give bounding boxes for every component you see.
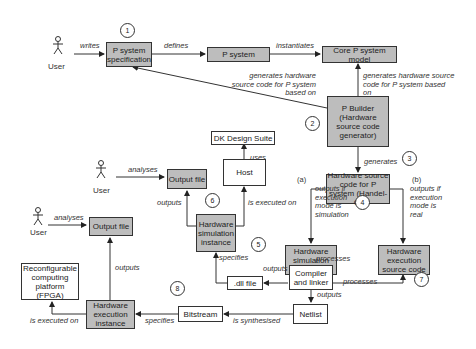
user-label-2: User xyxy=(93,187,110,196)
hardware-execution-instance-box: Hardware execution instance xyxy=(86,300,135,329)
core-p-system-model-box: Core P system model xyxy=(322,46,397,63)
label-outputs-sim: outputs xyxy=(157,199,182,208)
label-is-synthesised: is synthesised xyxy=(233,317,280,326)
netlist-box: Netlist xyxy=(293,304,328,324)
stick-figure-icon xyxy=(28,207,48,227)
p-system-box: P system xyxy=(207,47,270,62)
label-generates-right: generates hardware source code for P sys… xyxy=(363,72,455,98)
label-processes-sim: processes xyxy=(316,255,350,264)
label-is-executed-on-fpga: is executed on xyxy=(30,317,78,326)
step-marker-8: 8 xyxy=(170,281,185,296)
label-uses: uses xyxy=(250,154,266,163)
user-actor-2 xyxy=(91,160,111,184)
label-outputs-netlist: outputs xyxy=(317,291,342,300)
output-file-box-2: Output file xyxy=(89,217,133,236)
step-marker-5: 5 xyxy=(251,237,266,252)
hardware-execution-source-code-box: Hardware execution source code xyxy=(378,245,430,275)
bitstream-box: Bitstream xyxy=(178,306,223,322)
label-writes: writes xyxy=(80,42,100,51)
label-generates-left: generates hardware source code for P sys… xyxy=(228,72,316,98)
label-instantiates: instantiates xyxy=(276,42,314,51)
label-branch-a: (a) xyxy=(297,176,306,185)
stick-figure-icon xyxy=(48,36,68,56)
dk-design-suite-box: DK Design Suite xyxy=(211,131,275,145)
label-defines: defines xyxy=(164,42,188,51)
label-processes-exec: processes xyxy=(343,278,377,287)
step-marker-2: 2 xyxy=(305,116,320,131)
label-specifies-dll: specifies xyxy=(219,254,248,263)
hardware-simulation-instance-box: Hardware simulation instance xyxy=(196,214,236,252)
label-outputs-dll: outputs xyxy=(263,265,288,274)
step-marker-3: 3 xyxy=(402,151,417,166)
step-marker-6: 6 xyxy=(205,193,220,208)
step-marker-7: 7 xyxy=(414,272,429,287)
label-is-executed-on-host: is executed on xyxy=(248,199,296,208)
output-file-box-1: Output file xyxy=(167,169,207,189)
step-marker-4: 4 xyxy=(355,195,370,210)
stick-figure-icon xyxy=(91,160,111,180)
p-system-specification-box: P system specification xyxy=(106,42,152,67)
label-analyses-2: analyses xyxy=(54,214,84,223)
label-outputs-if-simulation: outputs if execution mode is simulation xyxy=(315,185,349,219)
user-actor-1 xyxy=(48,36,68,60)
label-generates: generates xyxy=(364,158,397,167)
user-label-3: User xyxy=(30,229,47,238)
p-builder-box: P Builder (Hardware source code generato… xyxy=(327,96,389,147)
label-analyses-1: analyses xyxy=(128,166,158,175)
dll-file-box: .dll file xyxy=(227,276,263,290)
label-specifies-bitstream: specifies xyxy=(145,317,174,326)
label-outputs-if-real: outputs if execution mode is real xyxy=(410,185,444,219)
label-outputs-exec: outputs xyxy=(115,264,140,273)
fpga-platform-box: Reconfigurable computing platform (FPGA) xyxy=(21,263,79,300)
user-label-1: User xyxy=(48,63,65,72)
host-box: Host xyxy=(223,159,266,186)
step-marker-1: 1 xyxy=(120,23,135,38)
compiler-and-linker-box: Compiler and linker xyxy=(289,265,333,290)
